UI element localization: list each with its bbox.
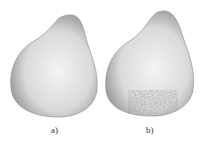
pear-shapes-illustration: [0, 0, 205, 147]
surface-artifacts: [128, 90, 178, 116]
figure: a) b): [0, 0, 205, 147]
pear-shape-a: [11, 15, 98, 117]
panel-label-b: b): [146, 125, 154, 135]
panel-label-a: a): [51, 125, 58, 135]
